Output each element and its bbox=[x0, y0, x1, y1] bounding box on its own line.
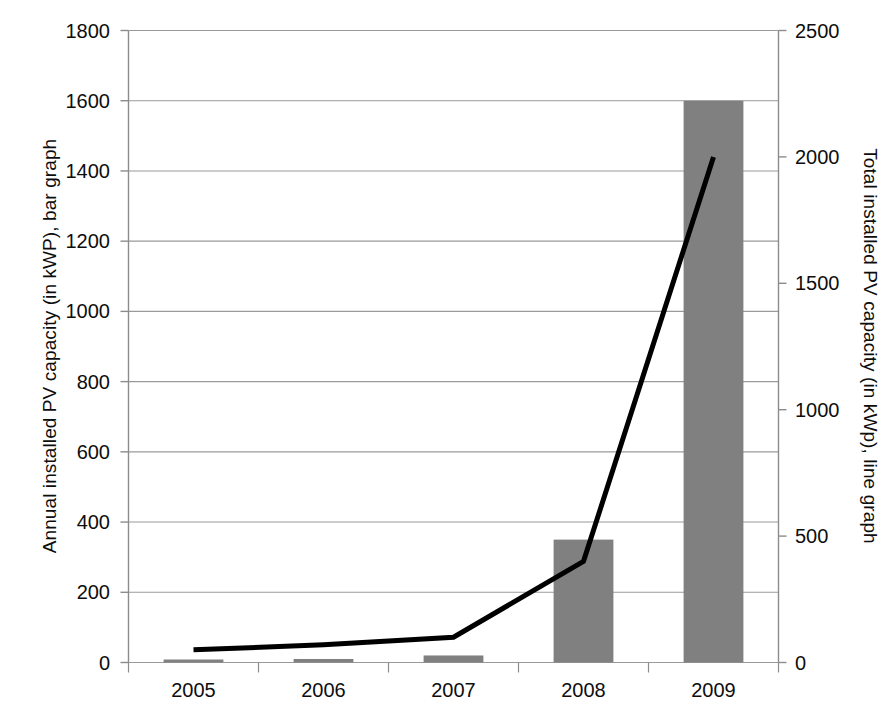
chart-container: Annual installed PV capacity (in kWP), b… bbox=[0, 0, 893, 728]
total-capacity-line bbox=[194, 157, 714, 650]
gridlines bbox=[129, 31, 779, 663]
plot-area bbox=[0, 0, 893, 728]
bar-2006 bbox=[294, 659, 354, 663]
bar-2007 bbox=[424, 655, 484, 662]
axis-lines bbox=[129, 31, 779, 663]
bar-2009 bbox=[684, 101, 744, 663]
line-series bbox=[194, 157, 714, 650]
bar-2005 bbox=[164, 660, 224, 663]
